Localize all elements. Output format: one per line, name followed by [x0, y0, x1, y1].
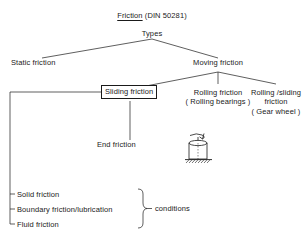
node-sliding-friction: Sliding friction: [101, 85, 157, 99]
diagram-title-main: Friction: [117, 11, 142, 20]
diagram-title-suffix: (DIN 50281): [143, 11, 187, 20]
diagram-title: Friction (DIN 50281): [117, 11, 187, 20]
node-rolling-friction: Rolling friction: [194, 88, 243, 97]
edge-moving-to-sliding: [146, 72, 218, 86]
conditions-label: conditions: [155, 204, 190, 213]
conditions-brace: [138, 189, 147, 228]
friction-classification-diagram: Friction (DIN 50281) Types Static fricti…: [0, 0, 307, 242]
edge-types-to-static-friction: [42, 39, 152, 58]
node-rolling-sliding-friction-note: ( Gear wheel ): [252, 107, 301, 116]
node-rolling-friction-note: ( Rolling bearings ): [186, 97, 251, 106]
node-rolling-sliding-friction-line1: Rolling /sliding: [251, 88, 301, 97]
node-rolling-sliding-friction-line2: friction: [265, 97, 288, 106]
condition-item-boundary-friction: Boundary friction/lubrication: [17, 205, 112, 214]
condition-item-solid-friction: Solid friction: [17, 190, 59, 199]
node-moving-friction: Moving friction: [193, 58, 243, 67]
rotating-cylinder-icon: [185, 134, 212, 164]
condition-item-fluid-friction: Fluid friction: [17, 220, 59, 229]
node-static-friction: Static friction: [11, 58, 55, 67]
edge-moving-to-rolling-sliding: [218, 72, 276, 84]
edge-types-to-moving-friction: [152, 39, 218, 58]
node-types: Types: [142, 29, 163, 38]
node-end-friction: End friction: [97, 140, 136, 149]
